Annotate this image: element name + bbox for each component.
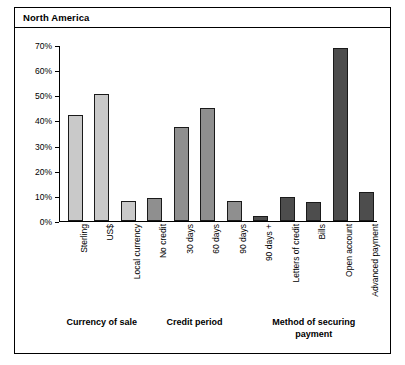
y-tick-label: 40% bbox=[35, 116, 52, 126]
x-axis-label: Bills bbox=[317, 224, 327, 240]
x-axis-label: 30 days bbox=[185, 224, 195, 254]
x-axis-label: Local currency bbox=[132, 224, 142, 279]
x-axis-label: Sterling bbox=[79, 224, 89, 253]
group-captions: Currency of saleCredit periodMethod of s… bbox=[31, 316, 379, 350]
x-axis-label: 90 days + bbox=[264, 224, 274, 261]
x-axis-label: 60 days bbox=[211, 224, 221, 254]
bar bbox=[174, 127, 189, 221]
y-tick-mark bbox=[55, 197, 59, 198]
y-tick-label: 20% bbox=[35, 167, 52, 177]
bar bbox=[147, 198, 162, 221]
x-axis-label: No credit bbox=[158, 224, 168, 258]
y-tick-mark bbox=[55, 172, 59, 173]
page-title: North America bbox=[23, 12, 89, 23]
y-tick-mark bbox=[55, 121, 59, 122]
bar bbox=[253, 216, 268, 221]
y-tick-mark bbox=[55, 222, 59, 223]
panel-title-bar: North America bbox=[15, 8, 390, 28]
x-axis-label: US$ bbox=[105, 224, 115, 241]
y-tick-mark bbox=[55, 71, 59, 72]
axes: 0%10%20%30%40%50%60%70% bbox=[59, 46, 377, 222]
y-tick-label: 70% bbox=[35, 41, 52, 51]
group-caption: Method of securing payment bbox=[254, 316, 374, 340]
x-axis-label: 90 days bbox=[238, 224, 248, 254]
plot-area: 0%10%20%30%40%50%60%70% SterlingUS$Local… bbox=[15, 28, 390, 354]
x-axis-label: Letters of credit bbox=[291, 224, 301, 283]
x-axis-line bbox=[59, 221, 377, 222]
bar bbox=[227, 201, 242, 221]
x-axis-label: Open account bbox=[344, 224, 354, 277]
x-axis-category-labels: SterlingUS$Local currencyNo credit30 day… bbox=[60, 224, 378, 310]
bar bbox=[333, 48, 348, 221]
y-tick-mark bbox=[55, 147, 59, 148]
y-tick-label: 10% bbox=[35, 192, 52, 202]
y-tick-label: 30% bbox=[35, 142, 52, 152]
bar-series bbox=[60, 46, 377, 221]
bar bbox=[68, 115, 83, 221]
y-tick-mark bbox=[55, 46, 59, 47]
chart-panel: North America 0%10%20%30%40%50%60%70% St… bbox=[14, 7, 391, 354]
y-tick-label: 60% bbox=[35, 66, 52, 76]
y-tick-mark bbox=[55, 96, 59, 97]
bar bbox=[306, 202, 321, 221]
bar bbox=[200, 108, 215, 221]
y-tick-label: 50% bbox=[35, 91, 52, 101]
y-tick-label: 0% bbox=[40, 217, 52, 227]
bar bbox=[121, 201, 136, 221]
bar bbox=[280, 197, 295, 221]
group-caption: Credit period bbox=[135, 316, 255, 328]
x-axis-label: Advanced payment bbox=[370, 224, 380, 297]
bar bbox=[359, 192, 374, 221]
bar bbox=[94, 94, 109, 221]
